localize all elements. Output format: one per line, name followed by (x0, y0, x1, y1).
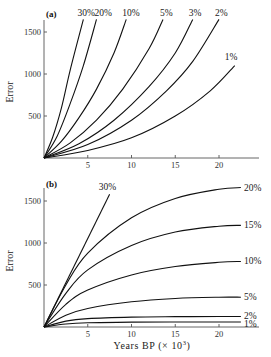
y-tick-label: 500 (28, 111, 41, 121)
curve-b-20pct (44, 188, 241, 327)
series-label-b-15pct: 15% (244, 220, 262, 230)
series-label-a-2pct: 2% (215, 8, 228, 18)
panel-a-curves: 30%20%10%5%3%2%1% (44, 8, 238, 158)
y-tick-label: 500 (28, 280, 41, 290)
x-tick-label: 10 (127, 160, 136, 170)
y-tick-label: 1000 (24, 69, 41, 79)
x-tick-label: 5 (86, 329, 90, 339)
curve-a-2pct (44, 19, 219, 158)
curve-a-1pct (44, 66, 235, 158)
curve-b-1pct (44, 322, 241, 327)
series-label-b-5pct: 5% (244, 292, 257, 302)
x-tick-label: 15 (171, 329, 180, 339)
series-label-a-10pct: 10% (122, 8, 140, 18)
y-tick-label: 1000 (24, 238, 41, 248)
series-label-b-20pct: 20% (244, 183, 262, 193)
x-tick-label: 20 (215, 160, 224, 170)
panel-b: (b) Error Years BP (× 103) 5101520500100… (4, 179, 261, 352)
series-label-a-1pct: 1% (225, 52, 238, 62)
panel-a: (a) Error 510152050010001500 30%20%10%5%… (4, 8, 259, 170)
series-label-a-30pct: 30% (77, 8, 95, 18)
series-label-b-10pct: 10% (244, 256, 262, 266)
series-label-a-20pct: 20% (95, 8, 113, 18)
y-tick-label: 1500 (24, 196, 41, 206)
x-tick-label: 10 (127, 329, 136, 339)
panel-a-y-axis-label: Error (4, 81, 15, 103)
panel-b-label: (b) (46, 179, 57, 189)
series-label-a-5pct: 5% (160, 8, 173, 18)
curve-b-15pct (44, 225, 241, 327)
x-tick-label: 15 (171, 160, 180, 170)
series-label-b-30pct: 30% (99, 182, 117, 192)
panel-b-curves: 30%20%15%10%5%2%1% (44, 182, 261, 329)
x-tick-label: 20 (215, 329, 224, 339)
panel-b-x-axis-label: Years BP (× 103) (114, 339, 191, 352)
panel-b-y-axis-label: Error (4, 250, 15, 272)
y-tick-label: 1500 (24, 27, 41, 37)
curve-a-20pct (44, 19, 97, 158)
series-label-a-3pct: 3% (189, 8, 202, 18)
chart-figure: (a) Error 510152050010001500 30%20%10%5%… (0, 0, 271, 357)
series-label-b-1pct: 1% (244, 319, 257, 329)
x-tick-label: 5 (86, 160, 90, 170)
panel-a-label: (a) (46, 9, 57, 19)
